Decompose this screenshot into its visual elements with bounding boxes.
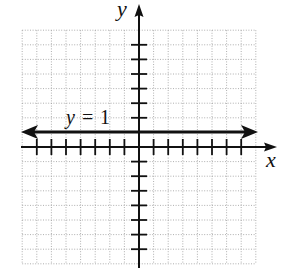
- line-label-var: y: [64, 106, 75, 129]
- x-axis: [21, 143, 277, 152]
- coordinate-plane: y x y = 1: [0, 0, 290, 278]
- line-label-eq: =: [82, 106, 93, 128]
- y-axis-label: y: [115, 0, 127, 21]
- line-label: y = 1: [64, 106, 110, 129]
- line-label-val: 1: [100, 106, 110, 128]
- x-axis-label: x: [265, 147, 276, 172]
- y-axis: [135, 4, 144, 268]
